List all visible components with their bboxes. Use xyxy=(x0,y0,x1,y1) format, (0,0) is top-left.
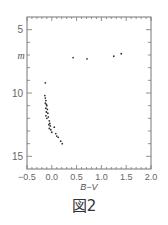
plot-frame xyxy=(27,17,151,169)
data-point xyxy=(113,55,115,57)
data-point xyxy=(56,135,58,137)
data-point xyxy=(55,133,57,135)
data-point xyxy=(120,53,122,55)
data-point xyxy=(51,131,53,133)
data-point xyxy=(50,129,52,131)
data-point xyxy=(48,124,50,126)
figure-caption: 図2 xyxy=(0,194,168,215)
scatter-chart: −0.50.00.51.01.52.0 51015 m B−V xyxy=(0,0,168,225)
data-point xyxy=(53,126,55,128)
data-point xyxy=(44,95,46,97)
x-tick-label: 1.5 xyxy=(120,172,133,182)
y-axis-label: m xyxy=(17,50,24,61)
data-point xyxy=(46,109,48,111)
x-tick-label: 1.0 xyxy=(95,172,108,182)
x-axis-label: B−V xyxy=(80,182,98,192)
y-tick-label: 10 xyxy=(12,88,24,99)
data-point xyxy=(44,82,46,84)
data-point xyxy=(49,125,51,127)
data-point xyxy=(47,116,49,118)
x-tick-label: 0.0 xyxy=(46,172,59,182)
data-point xyxy=(48,128,50,130)
data-point xyxy=(60,140,62,142)
data-point xyxy=(47,112,49,114)
data-point xyxy=(46,105,48,107)
x-tick-label: 0.5 xyxy=(70,172,83,182)
y-tick-label: 5 xyxy=(17,24,23,35)
data-point xyxy=(46,117,48,119)
x-tick-label: −0.5 xyxy=(18,172,36,182)
data-point xyxy=(48,120,50,122)
data-point xyxy=(44,97,46,99)
data-point xyxy=(45,111,47,113)
data-point xyxy=(45,107,47,109)
data-point xyxy=(86,58,88,60)
x-axis-ticks: −0.50.00.51.01.52.0 xyxy=(18,17,157,182)
x-tick-label: 2.0 xyxy=(145,172,158,182)
y-axis-ticks: 51015 xyxy=(12,24,151,162)
data-point xyxy=(61,143,63,145)
y-tick-label: 15 xyxy=(12,151,24,162)
data-point xyxy=(45,115,47,117)
data-point xyxy=(72,57,74,59)
data-point xyxy=(45,100,47,102)
data-point xyxy=(57,136,59,138)
data-points xyxy=(44,53,122,145)
